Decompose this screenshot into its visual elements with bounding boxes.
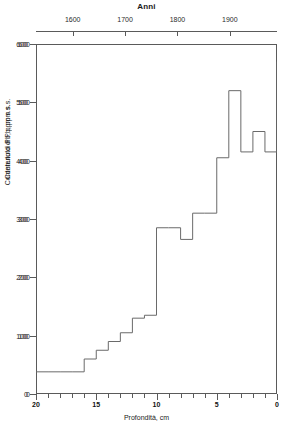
top-axis-tick: [125, 31, 126, 36]
y-axis-tick: [30, 336, 36, 337]
y-axis-tick-label-overlay: 300: [12, 216, 28, 223]
top-axis-tick-label: 1900: [222, 16, 238, 23]
x-axis-minor-tick: [108, 394, 109, 398]
x-axis-major-tick: [96, 394, 97, 400]
y-axis-tick: [30, 102, 36, 103]
x-axis-major-tick: [277, 394, 278, 400]
y-axis-tick-label-overlay: 100: [12, 332, 28, 339]
x-axis-tick-label: 0: [275, 401, 279, 408]
chart-figure: Anni 1600170018001900 001001002002003003…: [0, 0, 293, 428]
x-axis-minor-tick: [229, 394, 230, 398]
y-axis-tick: [30, 219, 36, 220]
x-axis-major-tick: [217, 394, 218, 400]
x-axis-tick-label: 15: [92, 401, 100, 408]
x-axis-major-tick: [36, 394, 37, 400]
x-axis-minor-tick: [132, 394, 133, 398]
x-axis-minor-tick: [253, 394, 254, 398]
x-axis-minor-tick: [181, 394, 182, 398]
top-axis-tick-label: 1600: [65, 16, 81, 23]
top-axis-tick: [73, 31, 74, 36]
x-axis-minor-tick: [205, 394, 206, 398]
y-axis-title: Contenuto di Pb, ppm s.s.: [4, 64, 11, 214]
x-axis-minor-tick: [241, 394, 242, 398]
x-axis-minor-tick: [60, 394, 61, 398]
top-axis-tick: [230, 31, 231, 36]
y-axis-tick-label-overlay: 600: [12, 41, 28, 48]
pb-step-line: [36, 62, 277, 372]
x-axis-major-tick: [157, 394, 158, 400]
y-axis-tick: [30, 277, 36, 278]
x-axis-minor-tick: [48, 394, 49, 398]
y-axis-tick: [30, 44, 36, 45]
x-axis-title: Profondità, cm: [0, 414, 293, 421]
chart-title: Anni: [0, 2, 293, 11]
x-axis-minor-tick: [193, 394, 194, 398]
x-axis-minor-tick: [144, 394, 145, 398]
x-axis-minor-tick: [120, 394, 121, 398]
y-axis-title-group: Contenuto di Pb, ppm s.s. Contenuto di P…: [4, 64, 18, 214]
step-plot-series: [36, 44, 277, 394]
x-axis-tick-label: 5: [215, 401, 219, 408]
x-axis-minor-tick: [169, 394, 170, 398]
x-axis-minor-tick: [72, 394, 73, 398]
x-axis-minor-tick: [84, 394, 85, 398]
top-axis-tick: [177, 31, 178, 36]
y-axis-tick-label-overlay: 0: [12, 391, 28, 398]
top-axis-tick-label: 1700: [117, 16, 133, 23]
top-axis-tick-label: 1800: [170, 16, 186, 23]
x-axis-tick-label: 10: [153, 401, 161, 408]
y-axis-tick-label-overlay: 200: [12, 274, 28, 281]
x-axis-minor-tick: [265, 394, 266, 398]
x-axis-tick-label: 20: [32, 401, 40, 408]
y-axis-tick: [30, 161, 36, 162]
